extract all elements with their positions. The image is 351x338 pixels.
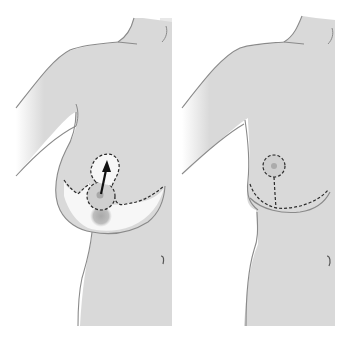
panel-after [182, 16, 335, 326]
nipple [271, 163, 277, 169]
panel-before [16, 18, 172, 326]
illustration-svg [0, 0, 351, 338]
nipple [97, 192, 104, 199]
illustration: Vertical and horizontal scar breast redu… [0, 0, 351, 338]
skin-area [182, 16, 335, 326]
